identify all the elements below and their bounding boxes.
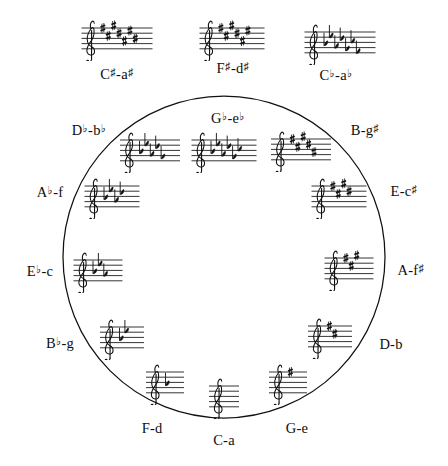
minor-key: e xyxy=(302,420,309,436)
minor-key: g xyxy=(67,335,74,351)
accidental-symbol: ♯ xyxy=(411,183,417,195)
major-key: D♭ xyxy=(72,122,88,138)
key-label-e-major: E-c♯ xyxy=(391,184,418,199)
major-key: A xyxy=(398,262,409,278)
major-key: E xyxy=(391,183,400,199)
minor-key: a♭ xyxy=(340,67,352,83)
key-signature-staff-b-major xyxy=(270,126,332,172)
major-key: E♭ xyxy=(27,263,42,279)
major-key: D xyxy=(379,336,390,352)
minor-key: g♯ xyxy=(366,122,380,138)
key-separator: - xyxy=(335,67,340,83)
key-label-d-flat-major: D♭-b♭ xyxy=(72,123,107,138)
key-label-b-flat-major: B♭-g xyxy=(46,336,74,351)
minor-key: b xyxy=(395,336,402,352)
key-signature-staff-d-major xyxy=(307,313,353,359)
key-signature-staff-a-major xyxy=(324,245,375,291)
key-label-c-sharp-major: C♯-a♯ xyxy=(100,67,134,82)
major-key: B xyxy=(351,122,361,138)
key-signature-staff-g-flat-major xyxy=(191,127,258,173)
minor-key: c♯ xyxy=(405,183,418,199)
key-signature-staff-f-sharp-major xyxy=(199,15,266,61)
major-key: C♯ xyxy=(100,66,116,82)
major-key: F♯ xyxy=(217,60,231,76)
key-signature-staff-d-flat-major xyxy=(119,127,181,173)
minor-key: f xyxy=(58,184,63,200)
major-key: C xyxy=(213,432,223,448)
accidental-symbol: ♯ xyxy=(373,122,379,134)
key-label-c-flat-major: C♭-a♭ xyxy=(319,68,352,83)
minor-key: c xyxy=(47,263,54,279)
key-signature-staff-c-sharp-major xyxy=(81,15,154,61)
minor-key: f♯ xyxy=(413,262,424,278)
key-signature-staff-c-flat-major xyxy=(304,19,377,65)
key-label-g-major: G-e xyxy=(286,421,308,436)
key-label-g-flat-major: G♭-e♭ xyxy=(211,111,245,126)
minor-key: d xyxy=(155,420,162,436)
key-label-f-sharp-major: F♯-d♯ xyxy=(217,61,250,76)
key-label-a-flat-major: A♭-f xyxy=(37,185,64,200)
minor-key: a xyxy=(228,432,235,448)
accidental-symbol: ♯ xyxy=(418,262,424,274)
accidental-symbol: ♯ xyxy=(243,60,249,72)
major-key: C♭ xyxy=(319,67,335,83)
key-signature-staff-e-major xyxy=(311,173,368,219)
key-signature-staff-f-major xyxy=(145,359,185,405)
major-key: G xyxy=(286,420,297,436)
accidental-symbol: ♭ xyxy=(239,110,245,122)
major-key: B♭ xyxy=(46,335,62,351)
key-label-d-major: D-b xyxy=(379,337,402,352)
key-label-c-major: C-a xyxy=(213,433,235,448)
key-signature-staff-b-flat-major xyxy=(99,314,145,360)
key-label-a-major: A-f♯ xyxy=(398,263,425,278)
key-signature-staff-e-flat-major xyxy=(73,247,124,293)
key-label-f-major: F-d xyxy=(142,421,163,436)
minor-key: b♭ xyxy=(93,122,106,138)
key-signature-staff-c-major xyxy=(208,373,240,419)
key-separator: - xyxy=(408,262,413,278)
key-signature-staff-a-flat-major xyxy=(84,173,141,219)
major-key: A♭ xyxy=(37,184,53,200)
key-label-b-major: B-g♯ xyxy=(351,123,379,138)
major-key: G♭ xyxy=(211,110,227,126)
minor-key: e♭ xyxy=(233,110,245,126)
accidental-symbol: ♭ xyxy=(101,122,107,134)
minor-key: d♯ xyxy=(236,60,250,76)
circle-of-fifths-figure: C-aG-eD-bA-f♯E-c♯B-g♯F♯-d♯C♯-a♯C♭-a♭G♭-e… xyxy=(0,0,448,466)
minor-key: a♯ xyxy=(121,66,134,82)
accidental-symbol: ♭ xyxy=(347,67,353,79)
key-signature-staff-g-major xyxy=(268,359,308,405)
accidental-symbol: ♯ xyxy=(128,66,134,78)
key-label-e-flat-major: E♭-c xyxy=(27,264,54,279)
